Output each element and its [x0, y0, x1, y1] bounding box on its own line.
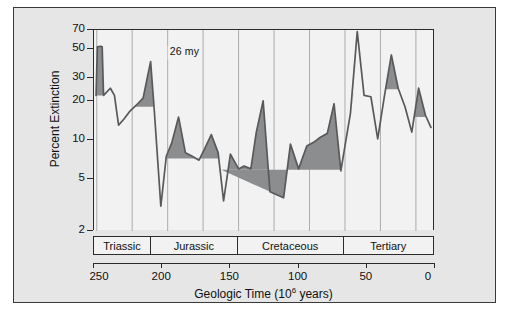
periodicity-label: 26 my [167, 45, 203, 57]
x-tick [161, 263, 162, 268]
y-tick-label: 10 [72, 133, 85, 145]
x-tick [434, 263, 435, 268]
period-band-cretaceous: Cretaceous [238, 237, 344, 254]
periodicity-annotation: 26 my [167, 46, 203, 62]
extinction-curve-svg [94, 30, 435, 231]
x-axis: 250200150100500 [93, 263, 434, 264]
x-tick-label: 50 [359, 270, 372, 282]
y-tick-label: 70 [72, 23, 85, 35]
x-tick [229, 263, 230, 268]
y-tick-label: 30 [72, 71, 85, 83]
x-tick [93, 263, 94, 268]
period-band-triassic: Triassic [94, 237, 151, 254]
peak-fill [221, 104, 341, 198]
x-tick-label: 250 [89, 270, 108, 282]
peak-fill [385, 55, 399, 95]
period-band-tertiary: Tertiary [344, 237, 433, 254]
figure-root: Percent Extinction 251020305070 26 my Tr… [0, 0, 513, 317]
plot-area [93, 29, 434, 230]
x-tick-label: 0 [425, 270, 431, 282]
chart-panel: Percent Extinction 251020305070 26 my Tr… [13, 7, 496, 303]
y-tick-label: 2 [79, 224, 85, 236]
x-tick-label: 150 [220, 270, 239, 282]
y-axis: Percent Extinction 251020305070 [14, 8, 93, 248]
x-tick [366, 263, 367, 268]
x-tick [298, 263, 299, 268]
y-axis-title: Percent Extinction [48, 44, 62, 194]
x-tick-label: 200 [152, 270, 171, 282]
peak-shading [96, 46, 426, 198]
x-axis-title: Geologic Time (106 years) [93, 286, 434, 301]
peak-fill [166, 117, 219, 160]
y-tick-label: 50 [72, 42, 85, 54]
y-tick-label: 20 [72, 94, 85, 106]
x-tick-label: 100 [288, 270, 307, 282]
y-tick-label: 5 [79, 172, 85, 184]
geologic-period-bands: TriassicJurassicCretaceousTertiary [93, 236, 434, 255]
y-tick [87, 230, 93, 231]
period-band-jurassic: Jurassic [151, 237, 238, 254]
